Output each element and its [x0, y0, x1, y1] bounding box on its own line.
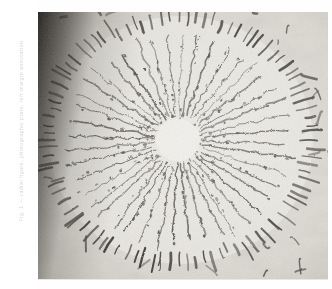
- central-blank-disc: [156, 119, 200, 161]
- scatter-mark: [278, 40, 279, 44]
- scatter-mark: [86, 236, 87, 251]
- ring-tick: [303, 130, 322, 131]
- ring-tick: [300, 140, 317, 141]
- ring-tick: [179, 252, 180, 265]
- scatter-mark: [61, 16, 67, 17]
- ring-tick: [195, 257, 197, 267]
- radial-figure-svg: [38, 12, 328, 280]
- page-canvas: Fig. 1 — radial figure, photographic pla…: [0, 0, 332, 289]
- margin-caption: Fig. 1 — radial figure, photographic pla…: [0, 0, 38, 289]
- ring-tick: [307, 149, 325, 150]
- scatter-mark: [253, 13, 257, 14]
- margin-caption-text: Fig. 1 — radial figure, photographic pla…: [18, 6, 24, 256]
- photographic-plate: [38, 12, 328, 280]
- plate-bottom-edge: [38, 279, 328, 280]
- ring-tick: [170, 253, 171, 270]
- ring-tick: [45, 133, 55, 134]
